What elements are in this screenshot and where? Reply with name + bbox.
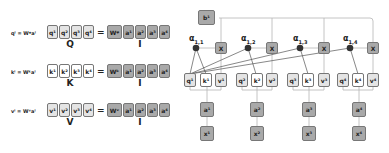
multiply-node: X xyxy=(266,42,278,54)
value-node: v² xyxy=(266,73,278,87)
input-node: x¹ xyxy=(200,126,214,141)
alpha-1-3: α1,3 xyxy=(293,34,307,45)
query-node: q³ xyxy=(287,73,299,87)
value-node: v⁴ xyxy=(367,73,379,87)
key-node: k⁴ xyxy=(352,73,364,87)
query-node: q² xyxy=(236,73,248,87)
key-node: k¹ xyxy=(200,73,212,87)
multiply-node: X xyxy=(367,42,379,54)
embedding-node: a⁴ xyxy=(352,102,366,117)
query-node: q⁴ xyxy=(337,73,349,87)
value-node: v³ xyxy=(318,73,330,87)
multiply-node: X xyxy=(215,42,227,54)
value-node: v¹ xyxy=(215,73,227,87)
input-node: x⁴ xyxy=(352,126,366,141)
alpha-1-2: α1,2 xyxy=(241,34,255,45)
embedding-node: a³ xyxy=(302,102,316,117)
key-node: k² xyxy=(251,73,263,87)
embedding-node: a¹ xyxy=(200,102,214,117)
key-node: k³ xyxy=(302,73,314,87)
input-node: x³ xyxy=(302,126,316,141)
output-b1: b¹ xyxy=(198,10,215,25)
embedding-node: a² xyxy=(250,102,264,117)
input-node: x² xyxy=(250,126,264,141)
alpha-1-4: α1,4 xyxy=(343,34,357,45)
multiply-node: X xyxy=(318,42,330,54)
query-node: q¹ xyxy=(184,73,196,87)
alpha-1-1: α1,1 xyxy=(189,34,203,45)
